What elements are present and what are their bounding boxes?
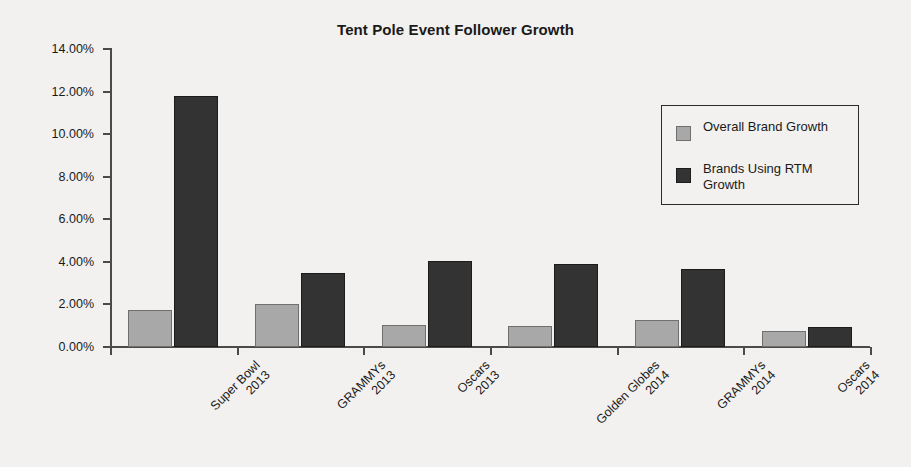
legend-swatch-icon xyxy=(676,168,691,183)
bar xyxy=(635,320,679,347)
y-axis-tick-label: 2.00% xyxy=(26,297,94,311)
x-axis-tick xyxy=(743,347,745,355)
y-axis-tick-label: 8.00% xyxy=(26,170,94,184)
x-axis-category-label: GRAMMYs2014 xyxy=(714,358,778,422)
bar xyxy=(554,264,598,347)
y-axis-tick-label: 12.00% xyxy=(26,85,94,99)
x-axis-tick xyxy=(490,347,492,355)
bar xyxy=(508,326,552,347)
legend-label: Brands Using RTM Growth xyxy=(703,161,838,193)
legend-item-overall-brand-growth: Overall Brand Growth xyxy=(676,119,828,141)
y-axis-tick-label: 0.00% xyxy=(26,340,94,354)
x-axis-tick xyxy=(237,347,239,355)
bar xyxy=(428,261,472,347)
bar-chart: Tent Pole Event Follower Growth 0.00%2.0… xyxy=(0,0,911,467)
x-axis-tick xyxy=(617,347,619,355)
legend-label: Overall Brand Growth xyxy=(703,119,828,135)
bar xyxy=(174,96,218,347)
bar xyxy=(681,269,725,347)
bar xyxy=(762,331,806,347)
y-axis-tick-label: 14.00% xyxy=(26,42,94,56)
x-axis-tick xyxy=(870,347,872,355)
chart-title: Tent Pole Event Follower Growth xyxy=(0,21,911,38)
x-axis-category-label: GRAMMYs2013 xyxy=(334,358,398,422)
bar xyxy=(301,273,345,348)
x-axis-tick xyxy=(110,347,112,355)
y-axis-tick-label: 4.00% xyxy=(26,255,94,269)
legend-swatch-icon xyxy=(676,126,691,141)
x-axis-category-label: Oscars2013 xyxy=(454,358,502,406)
chart-legend: Overall Brand Growth Brands Using RTM Gr… xyxy=(661,105,859,205)
bar xyxy=(255,304,299,347)
y-axis-tick-label: 6.00% xyxy=(26,212,94,226)
legend-item-brands-using-rtm-growth: Brands Using RTM Growth xyxy=(676,161,838,193)
bar xyxy=(382,325,426,347)
y-axis-tick-label: 10.00% xyxy=(26,127,94,141)
x-axis-tick xyxy=(363,347,365,355)
x-axis-category-label: Super Bowl2013 xyxy=(208,358,273,423)
bar xyxy=(808,327,852,347)
bar xyxy=(128,310,172,347)
x-axis-category-label: Oscars2014 xyxy=(834,358,882,406)
x-axis-category-label: Golden Globes2014 xyxy=(594,358,673,437)
